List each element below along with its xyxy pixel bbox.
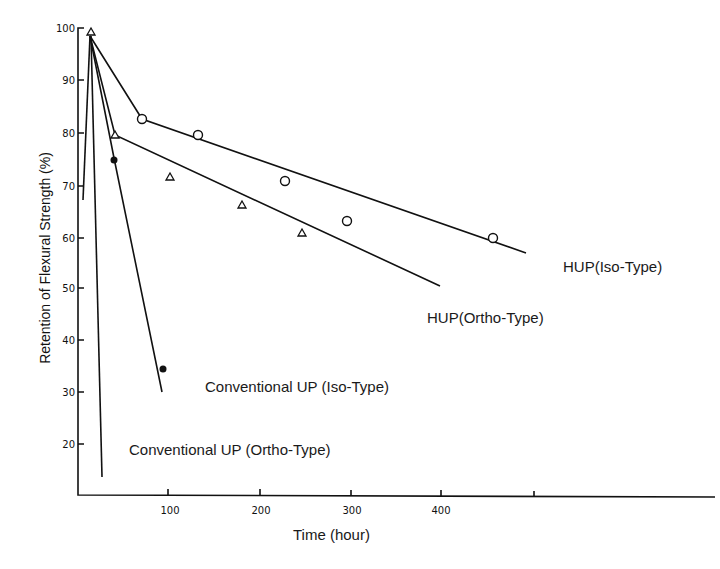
label-conv-ortho: Conventional UP (Ortho-Type) — [129, 441, 330, 458]
svg-text:400: 400 — [431, 505, 450, 516]
svg-text:20: 20 — [62, 439, 75, 450]
svg-text:80: 80 — [62, 128, 75, 139]
line-conv-ortho — [91, 36, 102, 477]
line-conv-ortho-left — [83, 36, 90, 200]
svg-text:300: 300 — [342, 505, 361, 516]
label-hup-ortho: HUP(Ortho-Type) — [427, 309, 544, 326]
svg-text:30: 30 — [62, 387, 75, 398]
line-hup-iso — [90, 36, 526, 253]
svg-text:100: 100 — [56, 23, 75, 34]
svg-text:90: 90 — [62, 75, 75, 86]
markers-hup-iso — [138, 115, 498, 243]
line-conv-iso — [90, 36, 162, 392]
x-axis-label: Time (hour) — [293, 526, 370, 543]
svg-text:200: 200 — [251, 505, 270, 516]
y-tick-labels: 100 90 80 70 60 50 40 30 20 — [56, 23, 75, 450]
line-hup-ortho — [90, 36, 440, 286]
x-tick-labels: 100 200 300 400 — [160, 505, 450, 516]
label-conv-iso: Conventional UP (Iso-Type) — [205, 378, 389, 395]
label-hup-iso: HUP(Iso-Type) — [563, 258, 662, 275]
y-axis-label: Retention of Flexural Strength (%) — [37, 133, 53, 383]
svg-text:50: 50 — [62, 283, 75, 294]
chart-plot: 100 90 80 70 60 50 40 30 20 100 200 300 … — [0, 0, 720, 569]
markers-conv-iso — [111, 157, 167, 373]
svg-text:100: 100 — [160, 505, 179, 516]
svg-text:60: 60 — [62, 233, 75, 244]
svg-text:70: 70 — [62, 181, 75, 192]
svg-text:40: 40 — [62, 335, 75, 346]
